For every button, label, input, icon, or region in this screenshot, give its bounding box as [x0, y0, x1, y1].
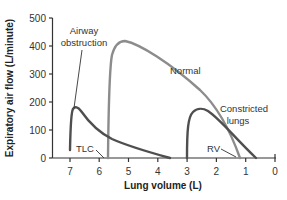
normal-curve — [108, 41, 240, 158]
tlc-leader-line — [96, 150, 104, 158]
x-tick-3: 3 — [184, 166, 190, 177]
x-tick-5: 5 — [126, 166, 132, 177]
y-tick-400: 400 — [29, 41, 46, 52]
x-tick-1: 1 — [243, 166, 249, 177]
constricted-lungs-annotation: Constricted lungs — [220, 103, 268, 126]
x-tick-7: 7 — [67, 166, 73, 177]
flow-volume-chart: 500 400 300 200 100 0 Expiratory air flo… — [0, 0, 287, 200]
airway-leader-line — [74, 50, 82, 108]
constricted-label-line2: lungs — [227, 115, 250, 126]
x-tick-2: 2 — [214, 166, 220, 177]
tlc-annotation: TLC — [76, 143, 104, 158]
airway-label-line1: Airway — [70, 25, 99, 36]
y-axis: 500 400 300 200 100 0 Expiratory air flo… — [4, 13, 53, 164]
y-tick-300: 300 — [29, 69, 46, 80]
rv-label: RV — [207, 143, 221, 154]
y-axis-title: Expiratory air flow (L/minute) — [4, 19, 15, 157]
y-tick-100: 100 — [29, 125, 46, 136]
tlc-label: TLC — [76, 143, 94, 154]
x-tick-0: 0 — [272, 166, 278, 177]
x-axis-title: Lung volume (L) — [124, 180, 202, 191]
rv-annotation: RV — [207, 143, 236, 157]
y-tick-200: 200 — [29, 97, 46, 108]
y-tick-500: 500 — [29, 13, 46, 24]
x-tick-4: 4 — [155, 166, 161, 177]
constricted-label-line1: Constricted — [220, 103, 268, 114]
x-tick-6: 6 — [96, 166, 102, 177]
rv-leader-line — [221, 149, 236, 157]
airway-label-line2: obstruction — [61, 37, 107, 48]
x-axis: 7 6 5 4 3 2 1 0 Lung volume (L) — [53, 154, 279, 191]
normal-label: Normal — [170, 65, 201, 76]
y-tick-0: 0 — [40, 153, 46, 164]
airway-obstruction-annotation: Airway obstruction — [61, 25, 107, 108]
